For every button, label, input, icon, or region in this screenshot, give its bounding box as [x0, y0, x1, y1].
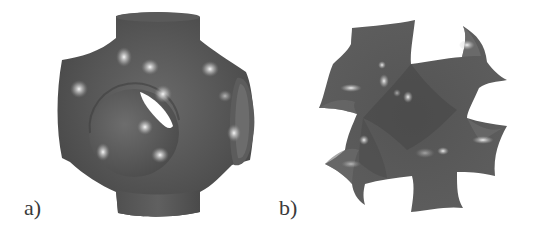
gyroid-surface-render: [267, 0, 534, 229]
panel-a: a): [0, 0, 267, 229]
panel-label-b: b): [279, 197, 297, 219]
panel-label-a: a): [24, 197, 41, 219]
panel-b: b): [267, 0, 534, 229]
top-tube-rim: [116, 12, 200, 22]
